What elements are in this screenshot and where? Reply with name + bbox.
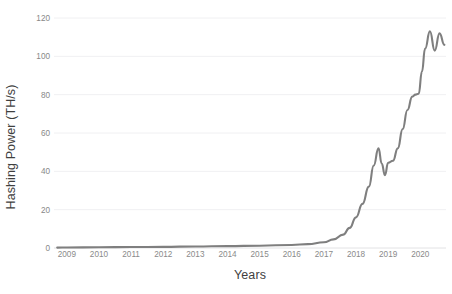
y-tick-label: 20 <box>24 205 50 214</box>
x-tick-label: 2016 <box>283 250 301 259</box>
data-line <box>57 31 444 247</box>
y-tick-label: 120 <box>24 14 50 23</box>
y-tick-label: 100 <box>24 52 50 61</box>
y-axis-tick-labels: 020406080100120 <box>24 0 50 294</box>
x-tick-label: 2018 <box>347 250 365 259</box>
y-tick-label: 80 <box>24 90 50 99</box>
y-tick-label: 0 <box>24 244 50 253</box>
x-tick-label: 2019 <box>379 250 397 259</box>
x-tick-label: 2017 <box>315 250 333 259</box>
x-tick-label: 2010 <box>90 250 108 259</box>
x-tick-label: 2015 <box>251 250 269 259</box>
y-tick-label: 60 <box>24 129 50 138</box>
x-tick-label: 2012 <box>154 250 172 259</box>
y-axis-title: Hashing Power (TH/s) <box>0 0 22 294</box>
x-tick-label: 2011 <box>122 250 140 259</box>
x-tick-label: 2014 <box>218 250 236 259</box>
plot-area <box>54 18 446 248</box>
y-tick-label: 40 <box>24 167 50 176</box>
x-axis-tick-labels: 2009201020112012201320142015201620172018… <box>54 250 446 266</box>
gridlines <box>54 18 446 248</box>
chart-plot-svg <box>54 18 446 248</box>
x-tick-label: 2020 <box>411 250 429 259</box>
data-series-group <box>57 31 444 247</box>
x-axis-title: Years <box>54 268 446 282</box>
x-tick-label: 2009 <box>58 250 76 259</box>
chart-container: Hashing Power (TH/s) 020406080100120 200… <box>0 0 452 294</box>
x-tick-label: 2013 <box>186 250 204 259</box>
